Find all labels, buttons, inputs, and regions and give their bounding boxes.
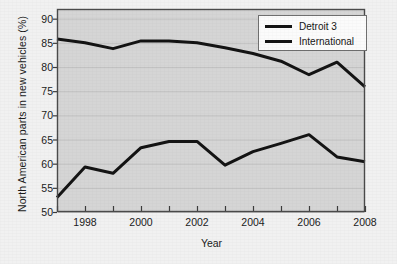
legend-line-icon — [265, 40, 292, 43]
chart-figure: 505560657075808590 North American parts … — [0, 0, 397, 264]
chart-legend: Detroit 3 International — [258, 15, 367, 51]
legend-item-international: International — [265, 34, 354, 48]
legend-label: International — [299, 36, 354, 47]
legend-item-detroit-3: Detroit 3 — [265, 19, 337, 33]
legend-label: Detroit 3 — [299, 21, 337, 32]
legend-line-icon — [265, 25, 292, 28]
